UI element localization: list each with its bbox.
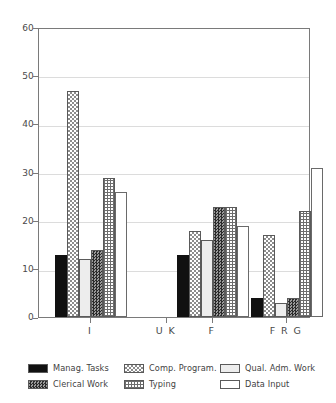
bar-F-qual-adm-work <box>201 240 213 317</box>
legend-label-manag-tasks: Manag. Tasks <box>53 364 109 373</box>
bar-FRG-manag-tasks <box>251 298 263 317</box>
bar-F-typing <box>225 207 237 317</box>
legend-swatch-typing-icon <box>124 380 144 389</box>
legend-item-typing: Typing <box>124 380 220 389</box>
legend-swatch-manag-tasks-icon <box>28 364 48 373</box>
chart-legend: Manag. Tasks Comp. Program. Qual. Adm. W… <box>28 360 314 392</box>
legend-swatch-qual-adm-work-icon <box>220 364 240 373</box>
bar-I-qual-adm-work <box>79 259 91 317</box>
bar-FRG-clerical-work <box>287 298 299 317</box>
legend-item-comp-program: Comp. Program. <box>124 364 220 373</box>
bar-F-comp-program <box>189 231 201 317</box>
x-tick-label-I: I <box>88 326 92 336</box>
legend-label-comp-program: Comp. Program. <box>149 364 217 373</box>
bar-group-I <box>55 29 127 317</box>
legend-label-qual-adm-work: Qual. Adm. Work <box>245 364 315 373</box>
y-tick-label-0: 0 <box>8 313 34 322</box>
x-tick-label-UK: U K <box>156 326 176 336</box>
y-tick-label-50: 50 <box>8 72 34 81</box>
bar-I-manag-tasks <box>55 255 67 317</box>
bar-FRG-typing <box>299 211 311 317</box>
bar-group-FRG <box>251 29 323 317</box>
y-tick-mark-0 <box>33 318 38 319</box>
x-tick-label-F: F <box>209 326 216 336</box>
y-tick-label-60: 60 <box>8 24 34 33</box>
bar-F-data-input <box>237 226 249 317</box>
x-tick-mark-I <box>90 318 91 323</box>
y-tick-label-10: 10 <box>8 265 34 274</box>
legend-swatch-data-input-icon <box>220 380 240 389</box>
bar-I-data-input <box>115 192 127 317</box>
bar-F-clerical-work <box>213 207 225 317</box>
bar-I-typing <box>103 178 115 317</box>
legend-item-qual-adm-work: Qual. Adm. Work <box>220 364 314 373</box>
legend-label-clerical-work: Clerical Work <box>53 380 108 389</box>
bar-chart: 60 50 40 30 20 10 0 <box>0 0 336 403</box>
bar-I-clerical-work <box>91 250 103 317</box>
legend-item-data-input: Data Input <box>220 380 314 389</box>
bar-I-comp-program <box>67 91 79 317</box>
y-tick-label-30: 30 <box>8 169 34 178</box>
bar-F-manag-tasks <box>177 255 189 317</box>
legend-item-clerical-work: Clerical Work <box>28 380 124 389</box>
bar-FRG-qual-adm-work <box>275 303 287 317</box>
legend-swatch-clerical-work-icon <box>28 380 48 389</box>
legend-item-manag-tasks: Manag. Tasks <box>28 364 124 373</box>
legend-swatch-comp-program-icon <box>124 364 144 373</box>
bar-FRG-comp-program <box>263 235 275 317</box>
legend-label-typing: Typing <box>149 380 176 389</box>
x-tick-mark-UK <box>166 318 167 323</box>
x-tick-mark-F <box>212 318 213 323</box>
x-tick-mark-FRG <box>286 318 287 323</box>
y-tick-label-40: 40 <box>8 120 34 129</box>
plot-area <box>38 28 310 318</box>
x-tick-label-FRG: F R G <box>270 326 302 336</box>
bar-group-F <box>177 29 249 317</box>
legend-label-data-input: Data Input <box>245 380 289 389</box>
y-tick-label-20: 20 <box>8 217 34 226</box>
bar-FRG-data-input <box>311 168 323 317</box>
